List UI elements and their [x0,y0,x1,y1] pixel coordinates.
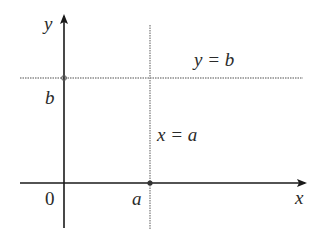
x-axis-label: x [294,187,304,208]
point-a-on-x-axis [147,180,152,185]
equation-y-equals-b: y = b [192,49,234,70]
origin-label: 0 [45,188,55,209]
y-axis-label: y [42,13,53,34]
equation-x-equals-a: x = a [156,124,197,145]
x-intercept-label: a [132,188,142,209]
y-intercept-label: b [45,87,55,108]
coordinate-diagram: y x 0 b a y = b x = a [0,0,333,235]
